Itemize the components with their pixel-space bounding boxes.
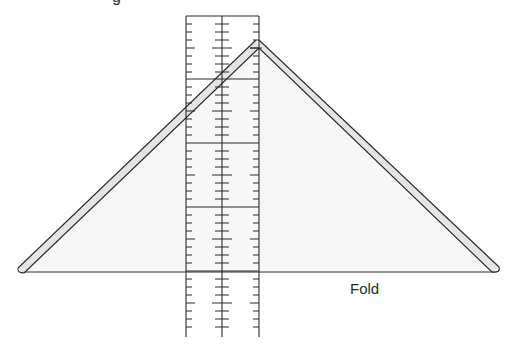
fold-label: Fold — [350, 280, 379, 298]
fold-diagram — [0, 0, 508, 354]
